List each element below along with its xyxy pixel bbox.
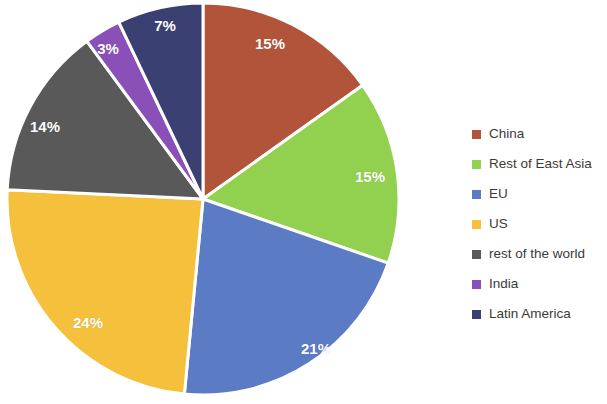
pie-slice-percent-label: 3% (97, 40, 119, 57)
legend-item-label: US (489, 217, 508, 231)
legend-item-label: Latin America (489, 307, 571, 321)
legend-item[interactable]: Latin America (472, 299, 607, 329)
legend-swatch-icon (472, 160, 481, 169)
pie-slice[interactable] (7, 190, 203, 394)
legend-item-label: Rest of East Asia (489, 157, 592, 171)
pie-slice-percent-label: 15% (355, 168, 385, 185)
legend-item-label: China (489, 127, 524, 141)
legend-swatch-icon (472, 220, 481, 229)
pie-slice-percent-label: 14% (30, 118, 60, 135)
legend-swatch-icon (472, 130, 481, 139)
chart-canvas: 15%15%21%24%14%3%7% ChinaRest of East As… (0, 0, 607, 404)
legend-item-label: rest of the world (489, 247, 585, 261)
legend-item[interactable]: Rest of East Asia (472, 149, 607, 179)
legend-item[interactable]: India (472, 269, 607, 299)
legend-item-label: India (489, 277, 518, 291)
pie-slice-percent-label: 15% (255, 35, 285, 52)
legend-item[interactable]: EU (472, 179, 607, 209)
pie-slice-percent-label: 24% (73, 314, 103, 331)
legend-swatch-icon (472, 250, 481, 259)
legend-swatch-icon (472, 280, 481, 289)
pie-chart-plot-area: 15%15%21%24%14%3%7% (0, 0, 420, 404)
chart-legend: ChinaRest of East AsiaEUUSrest of the wo… (472, 119, 607, 329)
legend-item[interactable]: US (472, 209, 607, 239)
pie-chart-svg (0, 0, 420, 404)
legend-swatch-icon (472, 190, 481, 199)
legend-item[interactable]: rest of the world (472, 239, 607, 269)
pie-slice-percent-label: 21% (301, 340, 331, 357)
legend-swatch-icon (472, 310, 481, 319)
pie-slice-percent-label: 7% (154, 17, 176, 34)
legend-item[interactable]: China (472, 119, 607, 149)
legend-item-label: EU (489, 187, 508, 201)
